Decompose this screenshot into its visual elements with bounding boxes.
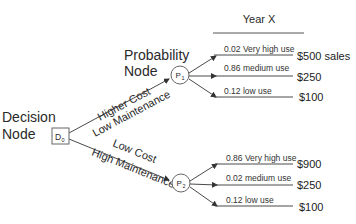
- probability-node-p2: P 2: [172, 174, 190, 192]
- decision-node-symbol: D: [55, 132, 61, 142]
- decision-node-label-line2: Node: [2, 126, 36, 142]
- probability-node-label-line2: Node: [124, 63, 158, 79]
- p1-symbol: P: [176, 71, 181, 80]
- p2-outcome-2-payoff: $250: [297, 179, 321, 191]
- p2-outcome-1-payoff: $900: [297, 158, 321, 170]
- p1-subscript: 1: [182, 75, 185, 81]
- p2-branch-1-arrow: [190, 164, 217, 181]
- probability-node-label-line1: Probability: [124, 47, 189, 63]
- p2-outcome-1-label: 0.86 Very high use: [226, 153, 297, 163]
- p1-outcome-1-label: 0.02 Very high use: [224, 44, 295, 54]
- p2-branch-3-arrow: [190, 187, 217, 206]
- p1-branches: 0.02 Very high use 0.86 medium use 0.12 …: [189, 44, 351, 103]
- p2-outcome-3-label: 0.12 low use: [226, 195, 274, 205]
- p1-outcome-1-payoff: $500 sales: [297, 50, 351, 62]
- p2-branch-2-arrow: [190, 184, 217, 185]
- p1-outcome-3-label: 0.12 low use: [224, 86, 272, 96]
- p2-symbol: P: [177, 179, 182, 188]
- p1-outcome-2-label: 0.86 medium use: [224, 63, 289, 73]
- decision-node-d0: D 0: [52, 128, 69, 144]
- decision-node-subscript: 0: [62, 137, 65, 143]
- p2-outcome-3-payoff: $100: [299, 201, 323, 213]
- p2-subscript: 2: [183, 183, 186, 189]
- p1-outcome-2-payoff: $250: [297, 71, 321, 83]
- p1-outcome-3-payoff: $100: [299, 91, 323, 103]
- p2-branches: 0.86 Very high use 0.02 medium use 0.12 …: [190, 153, 323, 213]
- p1-branch-3-arrow: [189, 79, 216, 97]
- year-header: Year X: [243, 13, 276, 25]
- p1-branch-1-arrow: [189, 56, 216, 73]
- decision-tree-canvas: Year X Decision Node Probability Node Hi…: [0, 0, 356, 224]
- decision-node-label-line1: Decision: [2, 109, 56, 125]
- decision-tree-diagram: Year X Decision Node Probability Node Hi…: [0, 0, 356, 224]
- p2-outcome-2-label: 0.02 medium use: [226, 173, 291, 183]
- probability-node-p1: P 1: [171, 66, 189, 84]
